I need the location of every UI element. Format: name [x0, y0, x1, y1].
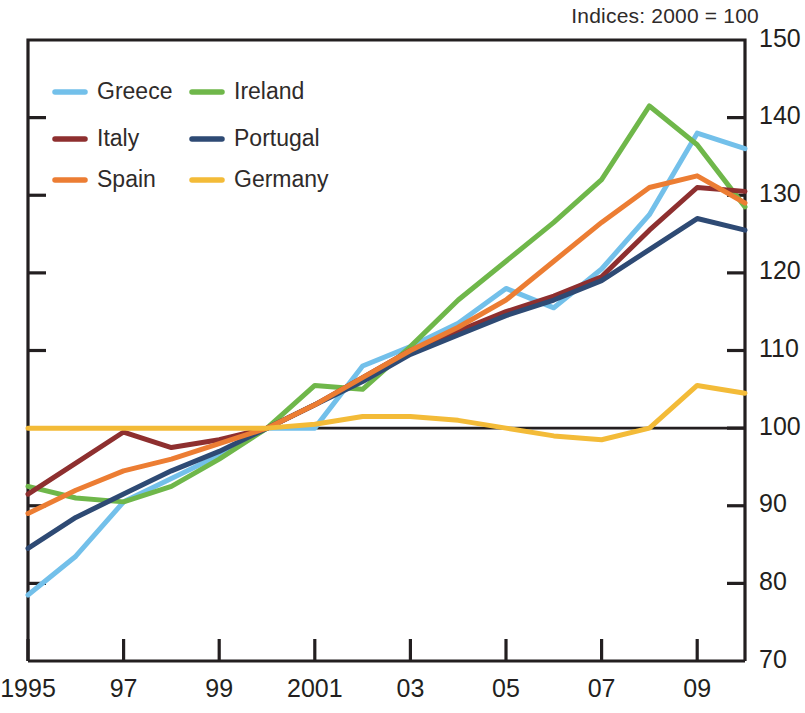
legend-item-ireland[interactable]: Ireland [192, 78, 304, 104]
legend-item-spain[interactable]: Spain [55, 166, 156, 192]
legend-label-ireland: Ireland [234, 78, 304, 104]
y-tick-label: 90 [759, 489, 787, 517]
legend-label-greece: Greece [97, 78, 172, 104]
y-tick-label: 110 [759, 334, 799, 362]
legend-label-portugal: Portugal [234, 125, 320, 151]
y-tick-label: 70 [759, 645, 787, 673]
legend-label-italy: Italy [97, 125, 140, 151]
chart-canvas: 708090100110120130140150 199597992001030… [0, 0, 805, 713]
legend-label-germany: Germany [234, 166, 329, 192]
x-tick-label: 2001 [287, 674, 343, 702]
legend-item-germany[interactable]: Germany [192, 166, 329, 192]
series-line-germany [28, 385, 745, 439]
series-line-italy [28, 187, 745, 494]
y-tick-label: 80 [759, 567, 787, 595]
legend-label-spain: Spain [97, 166, 156, 192]
x-tick-label: 09 [683, 674, 711, 702]
legend-item-portugal[interactable]: Portugal [192, 125, 320, 151]
x-tick-label: 03 [396, 674, 424, 702]
y-tick-label: 140 [759, 101, 801, 129]
x-tick-label: 1995 [0, 674, 56, 702]
chart-legend: GreeceIrelandItalyPortugalSpainGermany [55, 78, 329, 192]
x-tick-label: 05 [492, 674, 520, 702]
y-tick-label: 120 [759, 256, 801, 284]
x-tick-label: 07 [588, 674, 616, 702]
y-axis-labels: 708090100110120130140150 [759, 24, 801, 673]
price-competitiveness-line-chart: Indices: 2000 = 100 70809010011012013014… [0, 0, 805, 713]
legend-item-greece[interactable]: Greece [55, 78, 172, 104]
y-tick-label: 130 [759, 179, 801, 207]
y-tick-label: 150 [759, 24, 801, 52]
x-tick-label: 99 [205, 674, 233, 702]
x-axis-labels: 19959799200103050709 [0, 674, 711, 702]
x-tick-label: 97 [110, 674, 138, 702]
y-tick-label: 100 [759, 412, 801, 440]
legend-item-italy[interactable]: Italy [55, 125, 140, 151]
